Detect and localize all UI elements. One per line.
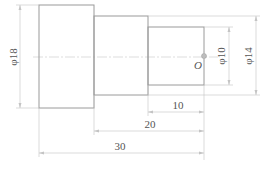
label-d18: φ18 xyxy=(7,45,21,69)
label-l20: 20 xyxy=(140,118,160,130)
shaft-drawing xyxy=(0,0,267,169)
label-d10: φ10 xyxy=(215,44,229,68)
label-d14: φ14 xyxy=(242,44,256,68)
label-point-o: O xyxy=(193,59,203,71)
section-large xyxy=(39,5,94,108)
label-l10: 10 xyxy=(168,99,188,111)
section-small xyxy=(148,27,204,85)
label-l30: 30 xyxy=(110,140,130,152)
section-medium xyxy=(94,16,148,95)
